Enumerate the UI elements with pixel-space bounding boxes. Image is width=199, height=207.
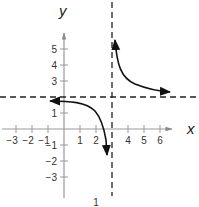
x-tick-labels: −3 −2 −1 1 2 4 5 6 (6, 135, 163, 146)
svg-text:−3: −3 (46, 172, 58, 183)
svg-text:3: 3 (51, 76, 57, 87)
svg-text:5: 5 (51, 44, 57, 55)
svg-text:−2: −2 (46, 156, 58, 167)
svg-text:1: 1 (77, 135, 83, 146)
svg-text:5: 5 (141, 135, 147, 146)
caption-fragment: 1 (93, 197, 99, 207)
curve-right-branch (115, 40, 170, 92)
svg-text:4: 4 (51, 60, 57, 71)
svg-text:6: 6 (157, 135, 163, 146)
y-tick-labels: 5 4 3 1 −1 −2 −3 (46, 44, 58, 183)
curve-left-branch (50, 101, 107, 155)
svg-text:1: 1 (51, 108, 57, 119)
y-axis-label: y (58, 2, 68, 19)
svg-text:−1: −1 (46, 140, 58, 151)
svg-text:2: 2 (93, 135, 99, 146)
svg-text:−2: −2 (22, 135, 34, 146)
svg-text:4: 4 (125, 135, 131, 146)
x-axis-label: x (186, 120, 195, 137)
svg-text:−3: −3 (6, 135, 18, 146)
graph: −3 −2 −1 1 2 4 5 6 5 4 3 1 −1 −2 −3 x y … (0, 0, 199, 207)
